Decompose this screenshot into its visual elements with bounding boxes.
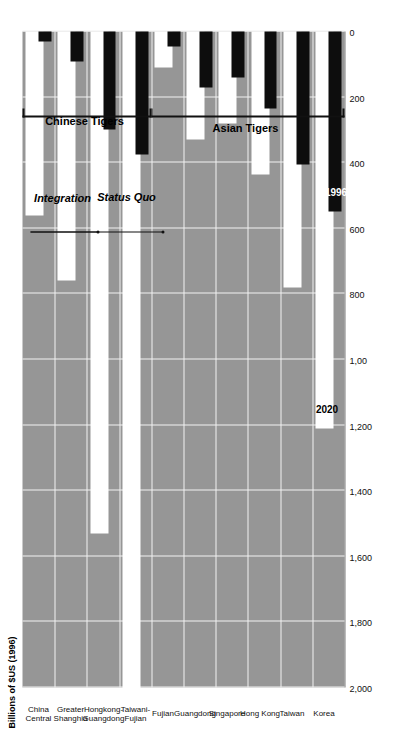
bar-1996 <box>70 31 83 61</box>
data-label-2020: 2020 <box>315 403 337 414</box>
plot-area <box>22 31 344 687</box>
axis-tick-label: 1,200 <box>349 421 372 431</box>
rotated-chart-frame: Billions of $US (1996) 2,0001,8001,6001,… <box>0 0 411 734</box>
axis-tick-label: 1,400 <box>349 486 372 496</box>
bar-1996 <box>199 31 212 87</box>
axis-tick-label: 600 <box>349 224 364 234</box>
axis-tick-label: 400 <box>349 158 364 168</box>
gridline-category <box>312 31 313 687</box>
axis-tick-label: 1,00 <box>349 355 367 365</box>
bar-1996 <box>264 31 277 108</box>
chinese-tigers-label: Chinese Tigers <box>45 115 124 127</box>
bar-1996 <box>38 31 51 41</box>
gridline-category <box>54 31 55 687</box>
integration-label: Integration <box>33 192 90 204</box>
category-label: China Central <box>15 704 61 722</box>
chart-screenshot: Billions of $US (1996) 2,0001,8001,6001,… <box>0 0 411 734</box>
axis-tick-label: 1,800 <box>349 617 372 627</box>
bar-1996 <box>231 31 244 77</box>
gridline-category <box>183 31 184 687</box>
integration-leader-line <box>30 231 98 232</box>
gridline-category <box>86 31 87 687</box>
asian-tigers-label: Asian Tigers <box>212 121 278 133</box>
bar-1996 <box>167 31 180 46</box>
axis-tick-label: 1,600 <box>349 552 372 562</box>
axis-tick-label: 2,000 <box>349 683 372 693</box>
bar-1996 <box>328 31 341 211</box>
status-quo-arrow-tip <box>161 230 164 233</box>
bar-2020 <box>25 31 43 215</box>
axis-tick-label: 800 <box>349 289 364 299</box>
bar-1996 <box>296 31 309 164</box>
gridline-category <box>119 31 120 687</box>
status-quo-label: Status Quo <box>97 191 156 203</box>
bar-1996 <box>135 31 148 154</box>
axis-tick-label: 0 <box>349 27 354 37</box>
integration-arrow-tip <box>96 230 99 233</box>
axis-tick-label: 200 <box>349 93 364 103</box>
bar-2020 <box>57 31 75 280</box>
axis-title: Billions of $US (1996) <box>6 636 16 728</box>
gridline-category <box>280 31 281 687</box>
asian-tigers-bracket <box>151 107 344 117</box>
data-label-1996: 1996 <box>325 187 347 198</box>
gridline-category <box>151 31 152 687</box>
